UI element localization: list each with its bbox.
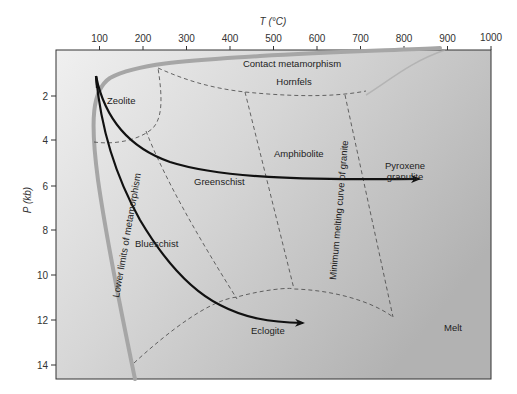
y-tick-label: 8 xyxy=(42,225,48,236)
label-granulite: granulite xyxy=(387,171,423,182)
label-hornfels: Hornfels xyxy=(276,76,312,87)
y-tick-label: 10 xyxy=(37,270,49,281)
x-tick-label: 300 xyxy=(178,33,195,44)
x-tick-label: 900 xyxy=(439,33,456,44)
x-axis-tick-labels: 100 200 300 400 500 600 700 800 900 1000 xyxy=(91,32,502,44)
y-tick-label: 4 xyxy=(42,135,48,146)
label-greenschist: Greenschist xyxy=(194,176,245,187)
label-amphibolite: Amphibolite xyxy=(274,148,324,159)
path-origin xyxy=(96,76,97,88)
x-tick-label: 1000 xyxy=(480,32,503,43)
x-tick-label: 400 xyxy=(222,33,239,44)
metamorphic-facies-diagram: 100 200 300 400 500 600 700 800 900 1000… xyxy=(0,0,517,394)
label-pyroxene: Pyroxene xyxy=(385,160,425,171)
x-tick-label: 500 xyxy=(265,33,282,44)
x-tick-label: 700 xyxy=(352,33,369,44)
x-axis-title: T (°C) xyxy=(260,16,287,27)
x-tick-label: 600 xyxy=(309,33,326,44)
y-tick-label: 12 xyxy=(37,315,49,326)
y-axis-ticks xyxy=(51,96,56,365)
y-tick-label: 2 xyxy=(42,91,48,102)
x-tick-label: 800 xyxy=(396,33,413,44)
y-tick-label: 14 xyxy=(37,360,49,371)
label-zeolite: Zeolite xyxy=(107,95,136,106)
label-melt: Melt xyxy=(444,322,462,333)
y-axis-title: P (kb) xyxy=(22,187,33,213)
y-axis-tick-labels: 2 4 6 8 10 12 14 xyxy=(37,91,49,371)
y-tick-label: 6 xyxy=(42,181,48,192)
x-tick-label: 100 xyxy=(91,33,108,44)
label-contact-metamorphism: Contact metamorphism xyxy=(243,58,341,69)
x-tick-label: 200 xyxy=(135,33,152,44)
label-blueschist: Blueschist xyxy=(135,238,179,249)
label-eclogite: Eclogite xyxy=(251,325,285,336)
